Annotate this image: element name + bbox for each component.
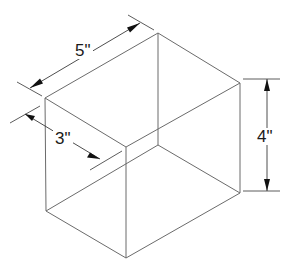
edge-left-vertical [45, 98, 46, 211]
arrowhead-4-bottom [264, 179, 270, 191]
dimension-label-height: 4" [255, 128, 275, 145]
arrowhead-3-right [87, 153, 100, 160]
arrowhead-5-left [30, 79, 43, 89]
edge-bottom-front-to-bottom-right [126, 193, 240, 258]
edge-apex-to-top-right [158, 33, 240, 83]
box-edges [45, 33, 240, 258]
edge-top-front-to-top-right [126, 83, 240, 147]
edge-bottom-left-to-back [46, 145, 158, 211]
arrowhead-4-top [264, 79, 270, 91]
extension-line-3-right [90, 151, 122, 170]
edge-top-left-to-apex [45, 33, 158, 98]
arrowhead-5-right [127, 23, 140, 33]
isometric-box-diagram [0, 0, 290, 265]
dimension-label-length: 5" [73, 42, 93, 59]
dimension-label-width: 3" [53, 130, 73, 147]
arrowhead-3-left [25, 114, 35, 121]
edge-back-to-bottom-right [158, 145, 240, 193]
edge-bottom-left-to-bottom-front [46, 211, 126, 258]
